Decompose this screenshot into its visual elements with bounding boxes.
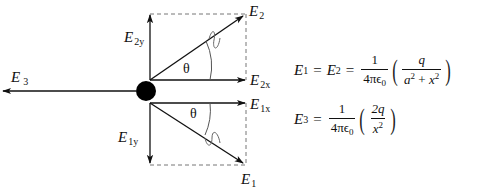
wiggle-mark-upper [209,32,220,48]
eq1-fraction: q a2 + x2 [402,52,441,88]
label-e2-sub: 2 [259,10,264,21]
label-e3: E3 [11,70,28,87]
label-e1: E1 [241,172,256,189]
eq2-den-x-sup: 2 [379,120,384,130]
label-e2y-sub: 2y [134,36,144,47]
point-charge [136,81,156,101]
dashed-guides [150,14,246,165]
eq2-coef-den: 4πϵ0 [329,118,356,137]
eq2-frac-num: 2q [369,101,386,118]
eq1-paren-open: ( [392,55,398,85]
label-e2x-sub: 2x [260,79,270,90]
eq2-paren-open: ( [360,104,366,134]
label-e3-sub: 3 [23,76,28,87]
eq1-lhs2: E [327,62,336,79]
eq1-frac-num: q [416,52,427,69]
eq2-fraction: 2q x2 [369,101,386,137]
label-e2y: E2y [124,30,144,47]
eq2-lhs: E [294,111,303,128]
label-e2: E2 [249,4,264,21]
label-e1x-main: E [250,96,259,112]
label-e2x-main: E [250,72,259,88]
eq1-coef-num: 1 [369,52,380,69]
theta-upper: θ [183,62,190,76]
eq1-coef-den: 4πϵ0 [361,69,388,88]
vector-e2 [150,16,243,80]
eq2-coef-den-text: 4πϵ [331,120,349,135]
eq2-coef-den-sub: 0 [349,127,354,137]
theta-lower: θ [190,107,197,121]
eq2-coef-num: 1 [337,101,348,118]
angle-arc-upper [206,41,212,80]
eq1-coef-den-text: 4πϵ [363,71,381,86]
label-e1x-sub: 1x [260,103,270,114]
eq1-lhs2-sub: 2 [336,65,341,76]
label-e2x: E2x [250,73,270,90]
label-e2y-main: E [124,29,133,45]
eq1-paren-close: ) [445,55,451,85]
equation-e3: E3 = 1 4πϵ0 ( 2q x2 ) [294,101,398,137]
eq1-den-plus: + [415,72,429,87]
field-vector-diagram [0,0,482,192]
eq1-coef-den-sub: 0 [382,78,387,88]
eq2-coefficient: 1 4πϵ0 [329,101,356,137]
angle-arc-lower [205,103,210,135]
eq2-paren-close: ) [391,104,397,134]
eq1-equals-1: = [313,62,321,79]
label-e1y-sub: 1y [128,136,138,147]
label-e2-main: E [249,3,258,19]
label-e1y-main: E [118,129,127,145]
eq2-frac-den: x2 [371,118,385,137]
eq2-lhs-sub: 3 [303,114,308,125]
eq1-frac-den: a2 + x2 [402,69,441,88]
eq1-lhs1: E [294,62,303,79]
eq1-den-x-sup: 2 [435,71,440,81]
label-e1x: E1x [250,97,270,114]
label-e1-main: E [241,171,250,187]
eq1-coefficient: 1 4πϵ0 [361,52,388,88]
label-e3-main: E [11,69,20,85]
equation-e1-e2: E1 = E2 = 1 4πϵ0 ( q a2 + x2 ) [294,52,453,88]
eq1-equals-2: = [346,62,354,79]
label-e1y: E1y [118,130,138,147]
label-e1-sub: 1 [251,178,256,189]
eq1-lhs1-sub: 1 [303,65,308,76]
eq2-equals: = [313,111,321,128]
